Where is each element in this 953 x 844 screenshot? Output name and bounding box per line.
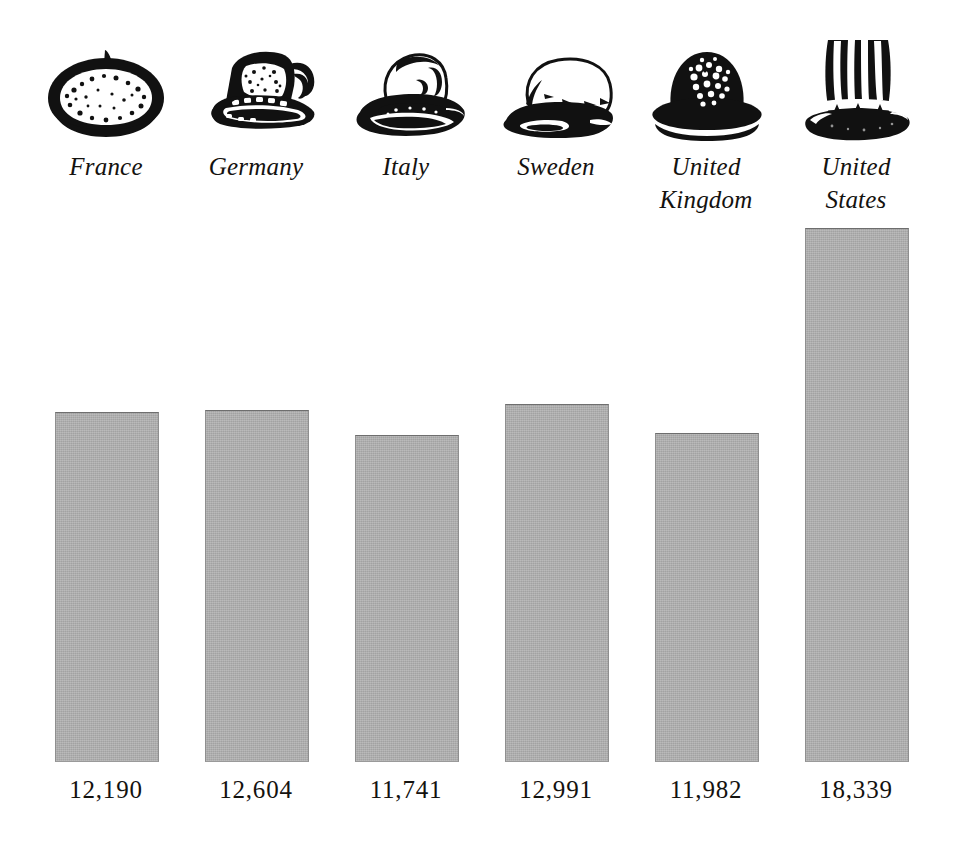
value-label-united-states: 18,339 bbox=[775, 776, 937, 804]
bar-area-sweden bbox=[481, 0, 631, 762]
bar-france[interactable] bbox=[55, 412, 159, 762]
bar-area-united-kingdom bbox=[631, 0, 781, 762]
bar-area-united-states bbox=[781, 0, 931, 762]
chart-column-italy: Italy 11,741 bbox=[331, 0, 481, 844]
bar-united-states[interactable] bbox=[805, 228, 909, 762]
value-label-germany: 12,604 bbox=[175, 776, 337, 804]
chart-column-germany: Germany 12,604 bbox=[181, 0, 331, 844]
chart-column-united-kingdom: United Kingdom 11,982 bbox=[631, 0, 781, 844]
bar-sweden[interactable] bbox=[505, 404, 609, 762]
chart-column-france: France 12,190 bbox=[31, 0, 181, 844]
chart-column-united-states: United States 18,339 bbox=[781, 0, 931, 844]
bar-area-germany bbox=[181, 0, 331, 762]
bar-area-italy bbox=[331, 0, 481, 762]
bar-united-kingdom[interactable] bbox=[655, 433, 759, 762]
value-label-sweden: 12,991 bbox=[475, 776, 637, 804]
value-label-united-kingdom: 11,982 bbox=[625, 776, 787, 804]
bar-italy[interactable] bbox=[355, 435, 459, 762]
value-label-france: 12,190 bbox=[25, 776, 187, 804]
bar-chart: France 12,190 bbox=[0, 0, 953, 844]
chart-column-sweden: Sweden 12,991 bbox=[481, 0, 631, 844]
bar-germany[interactable] bbox=[205, 410, 309, 762]
bar-area-france bbox=[31, 0, 181, 762]
value-label-italy: 11,741 bbox=[325, 776, 487, 804]
